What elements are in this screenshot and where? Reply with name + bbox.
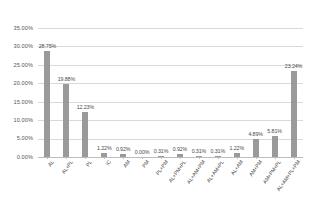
x-axis-tick bbox=[256, 157, 257, 159]
bar-chart: 35.00%30.00%25.00%20.00%15.00%10.00%5.00… bbox=[0, 0, 312, 209]
x-axis-category-label: AL+PM+PL bbox=[168, 159, 188, 184]
x-axis: ALAL+PLPLICAMPMPL+PMAL+PM+PLAL+AM+PMAL+A… bbox=[38, 159, 303, 209]
bar-value-label: 0.92% bbox=[173, 146, 188, 152]
x-axis-tick bbox=[294, 157, 295, 159]
plot-area: 28.75%19.88%12.23%1.22%0.92%0.00%0.31%0.… bbox=[38, 28, 303, 157]
gridline bbox=[38, 28, 303, 29]
x-axis-tick bbox=[275, 157, 276, 159]
y-axis-tick-label: 35.00% bbox=[0, 25, 33, 31]
y-axis-tick-label: 0.00% bbox=[0, 154, 33, 160]
bar-value-label: 5.81% bbox=[267, 128, 282, 134]
x-axis-tick bbox=[123, 157, 124, 159]
gridline bbox=[38, 46, 303, 47]
y-axis-tick-label: 25.00% bbox=[0, 62, 33, 68]
x-axis-tick bbox=[104, 157, 105, 159]
bar-value-label: 23.24% bbox=[285, 63, 302, 69]
x-axis-tick bbox=[47, 157, 48, 159]
x-axis-category-label: AM bbox=[121, 159, 130, 169]
bar-value-label: 0.31% bbox=[192, 148, 207, 154]
bar-value-label: 1.22% bbox=[229, 145, 244, 151]
x-axis-tick bbox=[66, 157, 67, 159]
bar-value-label: 28.75% bbox=[39, 43, 56, 49]
x-axis-tick bbox=[85, 157, 86, 159]
x-axis-category-label: PL+PM bbox=[154, 159, 168, 176]
bar bbox=[253, 139, 259, 157]
bar-value-label: 0.31% bbox=[154, 148, 169, 154]
y-axis-tick-label: 15.00% bbox=[0, 99, 33, 105]
x-axis-category-label: PM bbox=[140, 159, 149, 169]
gridline bbox=[38, 120, 303, 121]
bar bbox=[82, 112, 88, 157]
bar-value-label: 0.00% bbox=[135, 149, 150, 155]
bar bbox=[272, 136, 278, 157]
x-axis-category-label: AM+PM+PL bbox=[262, 159, 283, 185]
bar-value-label: 0.31% bbox=[211, 148, 226, 154]
y-axis-tick-label: 10.00% bbox=[0, 117, 33, 123]
y-axis-tick-label: 20.00% bbox=[0, 80, 33, 86]
bar-value-label: 1.22% bbox=[97, 145, 112, 151]
x-axis-category-label: AL+AM+PL bbox=[206, 159, 226, 184]
bar-value-label: 0.92% bbox=[116, 146, 131, 152]
x-axis-category-label: IC bbox=[104, 159, 112, 167]
x-axis-category-label: AL+AM+PM bbox=[186, 159, 207, 185]
x-axis-line bbox=[38, 157, 303, 158]
bar-value-label: 12.23% bbox=[77, 104, 94, 110]
x-axis-category-label: AL+PL bbox=[60, 159, 74, 175]
bar-value-label: 19.88% bbox=[58, 76, 75, 82]
gridline bbox=[38, 139, 303, 140]
bar-value-label: 4.89% bbox=[248, 131, 263, 137]
gridline bbox=[38, 102, 303, 103]
gridline bbox=[38, 65, 303, 66]
bar bbox=[291, 71, 297, 157]
x-axis-category-label: PL bbox=[84, 159, 92, 167]
bar bbox=[63, 84, 69, 157]
x-axis-tick bbox=[161, 157, 162, 159]
bar bbox=[44, 51, 50, 157]
y-axis-tick-label: 30.00% bbox=[0, 43, 33, 49]
y-axis-tick-label: 5.00% bbox=[0, 135, 33, 141]
x-axis-category-label: AM+PM bbox=[248, 159, 263, 177]
x-axis-category-label: AL+AM bbox=[230, 159, 244, 176]
x-axis-tick bbox=[142, 157, 143, 159]
gridline bbox=[38, 83, 303, 84]
x-axis-category-label: AL bbox=[46, 159, 54, 167]
